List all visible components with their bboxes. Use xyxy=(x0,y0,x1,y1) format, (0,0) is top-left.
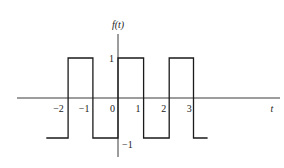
x-tick-label: 1 xyxy=(136,103,141,114)
y-tick-labels: 1−1 xyxy=(109,53,133,150)
x-tick-label: −1 xyxy=(79,103,90,114)
x-tick-labels: −2−10123 xyxy=(53,103,192,114)
x-tick-label: 3 xyxy=(187,103,192,114)
x-tick-label: 2 xyxy=(161,103,166,114)
y-tick-label: 1 xyxy=(109,53,114,64)
x-axis-label: t xyxy=(271,103,274,114)
x-tick-label: 0 xyxy=(110,103,115,114)
x-tick-label: −2 xyxy=(53,103,64,114)
y-axis-label: f(t) xyxy=(112,19,125,31)
square-wave-chart: f(t) t −2−10123 1−1 xyxy=(0,0,284,168)
y-tick-label: −1 xyxy=(122,139,133,150)
